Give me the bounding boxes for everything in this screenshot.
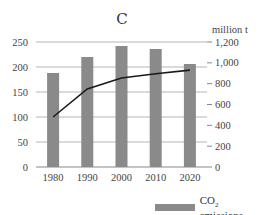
- bar-2020: [184, 64, 196, 167]
- left-axis-tick: 200: [12, 62, 28, 73]
- left-axis-tick: 0: [23, 162, 28, 173]
- legend: CO2 emissions: [155, 194, 264, 215]
- bar-2010: [150, 49, 162, 167]
- right-axis-tick: 0: [215, 162, 220, 173]
- x-axis-tick: 2020: [179, 172, 200, 183]
- left-axis-tick: 100: [12, 112, 28, 123]
- right-axis-tick: 600: [215, 99, 231, 110]
- combo-chart: C05010015020025002004006008001,0001,200m…: [0, 0, 264, 215]
- right-axis-tick: 200: [215, 141, 231, 152]
- right-axis-unit: million t: [212, 24, 248, 35]
- right-axis-tick: 1,000: [215, 57, 239, 68]
- bar-2000: [116, 46, 128, 167]
- legend-swatch-co2: [155, 204, 195, 211]
- x-axis-tick: 1980: [43, 172, 64, 183]
- chart-title: C: [116, 10, 127, 28]
- x-axis-tick: 1990: [77, 172, 98, 183]
- left-axis-tick: 250: [12, 37, 28, 48]
- left-axis-tick: 150: [12, 87, 28, 98]
- right-axis-tick: 400: [215, 120, 231, 131]
- left-axis-tick: 50: [18, 137, 29, 148]
- bar-1990: [81, 57, 93, 167]
- legend-label-co2: CO2 emissions: [200, 194, 264, 215]
- x-axis-tick: 2000: [111, 172, 132, 183]
- right-axis-tick: 800: [215, 78, 231, 89]
- bar-1980: [47, 73, 59, 167]
- right-axis-tick: 1,200: [215, 37, 239, 48]
- x-axis-tick: 2010: [145, 172, 166, 183]
